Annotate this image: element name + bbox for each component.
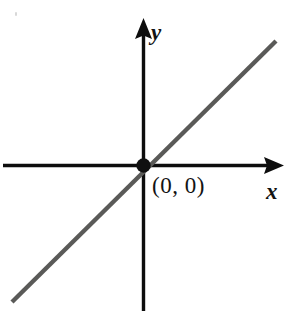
scan-artifact-speck (15, 12, 17, 16)
x-axis-arrow-icon (264, 157, 284, 174)
origin-coordinate-label: (0, 0) (152, 174, 205, 197)
x-axis-label: x (266, 180, 278, 203)
y-axis-label: y (151, 21, 161, 44)
origin-point-marker (136, 158, 150, 172)
graph-figure: y x (0, 0) (0, 0, 297, 324)
coordinate-plane-svg (0, 0, 297, 324)
